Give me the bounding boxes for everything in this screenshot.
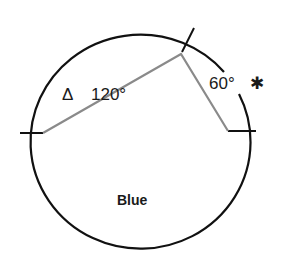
asterisk-marker-icon: ✱ xyxy=(250,74,264,93)
angle-label-120: 120° xyxy=(91,85,126,104)
angle-label-60: 60° xyxy=(209,74,235,93)
region-label: Blue xyxy=(117,192,148,208)
diagram-canvas: Δ 120° 60° ✱ Blue xyxy=(0,0,283,268)
triangle-marker-icon: Δ xyxy=(62,85,73,104)
circle-outline xyxy=(31,35,251,249)
